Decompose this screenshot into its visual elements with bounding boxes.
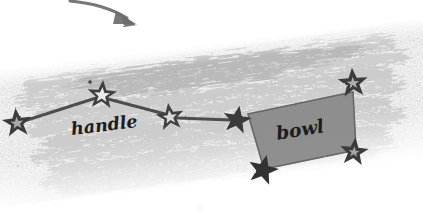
sketch-canvas: handle bowl (0, 0, 423, 221)
sketch-illustration: handle bowl (0, 0, 423, 221)
